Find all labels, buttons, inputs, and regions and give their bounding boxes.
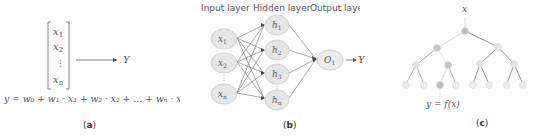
output-y: Y: [123, 54, 131, 65]
input-hidden-edges: [237, 25, 264, 98]
panel-b-neural-network: Input layer Hidden layer Output layer x1…: [180, 0, 360, 137]
svg-text:xn: xn: [53, 74, 64, 87]
caption-a: (a): [83, 120, 96, 130]
hidden-output-edges: [289, 25, 316, 98]
svg-text:x2: x2: [53, 41, 63, 54]
panel-c-decision-tree: x: [360, 0, 539, 137]
arrow-right-icon: [76, 58, 118, 62]
panel-a-linear-model: x1 x2 ⋮ xn Y y = w₀ + w₁ · x₁ + w₂ · x₂ …: [0, 0, 180, 137]
input-nodes: x1 x2 xn: [211, 29, 237, 104]
input-layer-label: Input layer: [201, 3, 250, 13]
caption-c: (c): [476, 118, 488, 128]
caption-b: (b): [283, 120, 296, 130]
input-vector: x1 x2 ⋮ xn: [53, 26, 65, 87]
output-node: O1: [317, 50, 343, 70]
root-input-label: x: [462, 4, 467, 14]
ellipsis-vertical: ⋮: [56, 58, 65, 68]
hidden-nodes: h1 h2 h3 hn: [265, 15, 289, 110]
arrowheads: [261, 23, 265, 100]
output-layer-label: Output layer: [310, 3, 360, 13]
svg-text:x1: x1: [53, 26, 63, 39]
leaf-output-label: y = f(x): [425, 99, 460, 109]
hidden-layer-label: Hidden layer: [253, 3, 311, 13]
regression-equation: y = w₀ + w₁ · x₁ + w₂ · x₂ + … + wₙ · xₙ: [3, 93, 180, 104]
